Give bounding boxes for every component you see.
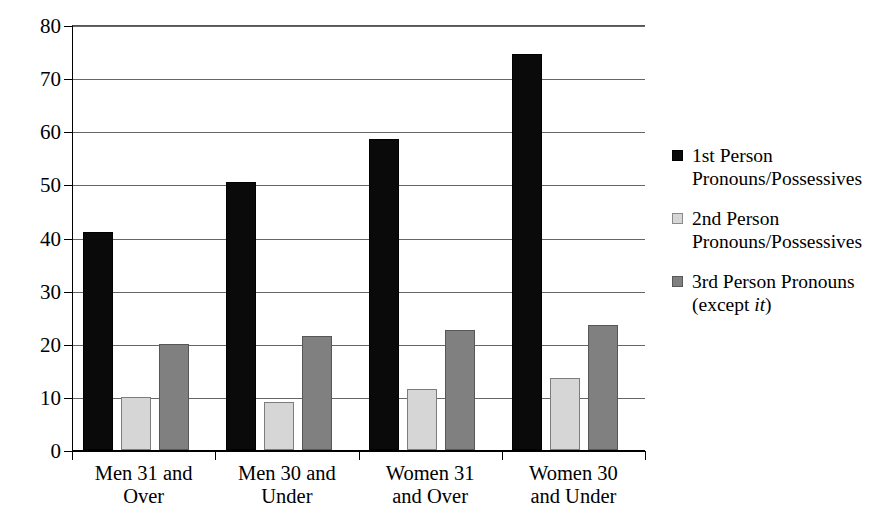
- y-tick-label: 70: [40, 69, 61, 90]
- y-tick-label: 80: [40, 16, 61, 37]
- bar: [550, 378, 580, 450]
- bar: [302, 336, 332, 450]
- legend-label: 3rd Person Pronouns (except it): [692, 270, 855, 316]
- bar-groups: [72, 25, 645, 450]
- bar: [512, 54, 542, 450]
- x-axis-category-label: Men 31 and Over: [72, 462, 215, 508]
- legend-italic-word: it: [754, 294, 765, 315]
- bar: [159, 344, 189, 450]
- x-axis: [72, 450, 645, 451]
- bar: [407, 389, 437, 450]
- bar: [445, 330, 475, 450]
- legend-item: 3rd Person Pronouns (except it): [672, 270, 882, 316]
- x-axis-tick: [359, 451, 360, 460]
- y-tick-label: 30: [40, 281, 61, 302]
- y-tick-label: 40: [40, 228, 61, 249]
- bar: [226, 182, 256, 450]
- bar-group: [72, 25, 215, 450]
- x-axis-category-label: Women 30 and Under: [502, 462, 645, 508]
- y-tick-label: 10: [40, 387, 61, 408]
- y-tick-label: 0: [51, 441, 62, 462]
- legend-label: 1st Person Pronouns/Possessives: [692, 144, 862, 190]
- bar-group: [502, 25, 645, 450]
- legend-swatch-icon: [672, 276, 683, 287]
- bar: [83, 232, 113, 450]
- x-axis-tick: [72, 451, 73, 460]
- bar-group: [215, 25, 358, 450]
- x-axis-tick: [215, 451, 216, 460]
- bar-group: [359, 25, 502, 450]
- x-axis-tick: [645, 451, 646, 460]
- bar: [264, 402, 294, 450]
- y-tick-label: 50: [40, 175, 61, 196]
- legend-item: 1st Person Pronouns/Possessives: [672, 144, 882, 190]
- bar: [369, 139, 399, 450]
- bar: [121, 397, 151, 450]
- bar: [588, 325, 618, 450]
- chart-legend: 1st Person Pronouns/Possessives2nd Perso…: [672, 144, 882, 333]
- legend-item: 2nd Person Pronouns/Possessives: [672, 207, 882, 253]
- legend-swatch-icon: [672, 150, 683, 161]
- x-axis-tick: [502, 451, 503, 460]
- bar-chart: 01020304050607080 Men 31 and OverMen 30 …: [0, 0, 885, 524]
- x-axis-category-label: Men 30 and Under: [215, 462, 358, 508]
- y-tick-label: 20: [40, 334, 61, 355]
- x-axis-category-label: Women 31 and Over: [359, 462, 502, 508]
- legend-label: 2nd Person Pronouns/Possessives: [692, 207, 862, 253]
- y-tick-label: 60: [40, 122, 61, 143]
- legend-swatch-icon: [672, 213, 683, 224]
